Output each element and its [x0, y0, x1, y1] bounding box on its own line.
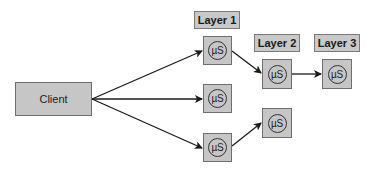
layer-1-label: Layer 1 — [194, 11, 240, 29]
layer-3-label: Layer 3 — [314, 34, 360, 52]
layer-1-service-2: µS — [203, 84, 232, 113]
layer-2-label: Layer 2 — [254, 34, 300, 52]
microservice-icon: µS — [208, 138, 227, 157]
microservice-icon: µS — [268, 65, 287, 84]
microservice-icon: µS — [268, 114, 287, 133]
microservice-icon: µS — [208, 89, 227, 108]
microservice-icon: µS — [328, 65, 347, 84]
arrow-client-to-l1s3 — [92, 99, 202, 148]
client-label: Client — [39, 93, 67, 105]
arrow-client-to-l1s1 — [92, 51, 202, 99]
client-box: Client — [15, 82, 92, 116]
microservice-icon: µS — [208, 41, 227, 60]
arrow-l1s3-to-l2s2 — [232, 123, 261, 146]
arrow-l1s1-to-l2s1 — [232, 51, 261, 73]
layer-3-service-1: µS — [322, 59, 352, 89]
layer-2-service-1: µS — [262, 59, 292, 89]
layer-2-service-2: µS — [262, 108, 292, 138]
layer-1-service-3: µS — [203, 133, 232, 162]
layer-1-service-1: µS — [203, 36, 232, 65]
